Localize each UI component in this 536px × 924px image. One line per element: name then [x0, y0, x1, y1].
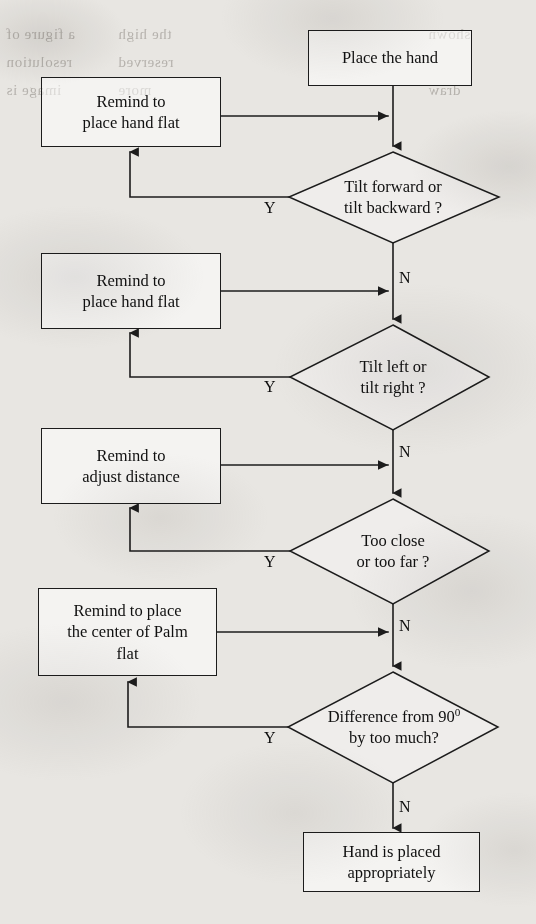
node-label-line-1: Remind to: [96, 271, 165, 290]
node-label-line-2: appropriately: [348, 863, 436, 882]
branch-label-no-tilt-fb: N: [399, 269, 411, 287]
node-label: Remind to place the center of Palm flat: [67, 600, 188, 663]
node-label-line-2: place hand flat: [82, 292, 179, 311]
node-label: Place the hand: [342, 47, 438, 68]
branch-label-yes-tilt-fb: Y: [264, 199, 276, 217]
node-label: Remind to place hand flat: [82, 270, 179, 312]
node-label-line-3: flat: [117, 644, 139, 663]
branch-label-yes-angle: Y: [264, 729, 276, 747]
node-remind-place-hand-flat-2[interactable]: Remind to place hand flat: [41, 253, 221, 329]
decision-shape-too-close-too-far: [290, 499, 489, 604]
node-label-line-1: Remind to: [96, 446, 165, 465]
node-label-line-1: Hand is placed: [342, 842, 440, 861]
node-label-line-2: adjust distance: [82, 467, 180, 486]
branch-label-no-distance: N: [399, 617, 411, 635]
flowchart-page: a figure of resolution image is the high…: [0, 0, 536, 924]
node-remind-place-hand-flat-1[interactable]: Remind to place hand flat: [41, 77, 221, 147]
node-label-line-2: place hand flat: [82, 113, 179, 132]
decision-shape-tilt-left-right: [290, 325, 489, 430]
branch-label-no-angle: N: [399, 798, 411, 816]
node-remind-adjust-distance[interactable]: Remind to adjust distance: [41, 428, 221, 504]
branch-label-yes-distance: Y: [264, 553, 276, 571]
node-label: Remind to place hand flat: [82, 91, 179, 133]
node-label-line-1: Remind to place: [73, 601, 181, 620]
node-hand-is-placed-appropriately[interactable]: Hand is placed appropriately: [303, 832, 480, 892]
node-label-line-2: the center of Palm: [67, 622, 188, 641]
branch-label-yes-tilt-lr: Y: [264, 378, 276, 396]
node-label: Hand is placed appropriately: [342, 841, 440, 883]
edge-too-close-yes-to-remind-distance: [130, 508, 290, 551]
edge-difference-90-yes-to-remind-palm: [128, 682, 288, 727]
node-label: Remind to adjust distance: [82, 445, 180, 487]
decision-shape-difference-from-90: [288, 672, 498, 783]
edge-tilt-lr-yes-to-remind-flat-2: [130, 333, 290, 377]
edge-tilt-fb-yes-to-remind-flat-1: [130, 152, 289, 197]
decision-shape-tilt-forward-backward: [289, 152, 499, 243]
branch-label-no-tilt-lr: N: [399, 443, 411, 461]
node-remind-place-center-palm-flat[interactable]: Remind to place the center of Palm flat: [38, 588, 217, 676]
node-place-the-hand[interactable]: Place the hand: [308, 30, 472, 86]
node-label-line-1: Remind to: [96, 92, 165, 111]
